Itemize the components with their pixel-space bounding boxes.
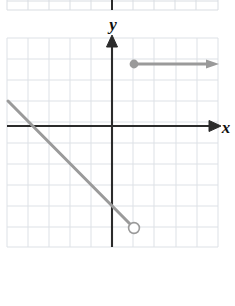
ray-arrowhead xyxy=(206,60,219,69)
function-graph xyxy=(8,60,219,234)
open-endpoint-marker xyxy=(129,223,140,234)
y-axis-label: y xyxy=(107,15,117,34)
x-axis-label: x xyxy=(221,118,231,137)
closed-endpoint-marker xyxy=(130,60,139,69)
piecewise-formula: f(x) = { −4 − xif x < 1 3if x ≥ 1 xyxy=(0,258,235,306)
axes xyxy=(7,35,221,247)
y-axis-arrowhead xyxy=(107,35,118,47)
